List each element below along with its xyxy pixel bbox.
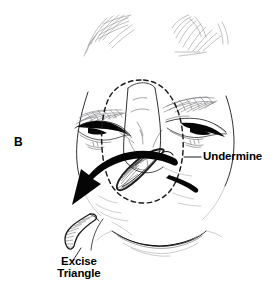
dashed-undermining-outline[interactable] [102, 80, 184, 203]
hair-strand-right [172, 15, 228, 56]
right-eyebrow [163, 97, 217, 112]
surgical-illustration-figure: B Undermine ExciseTriangle [0, 0, 275, 295]
excise-label-line2: Triangle [57, 267, 100, 279]
undermine-annotation-label: Undermine [203, 150, 262, 162]
excise-triangle-annotation-label: ExciseTriangle [42, 255, 116, 280]
panel-letter-label: B [14, 136, 23, 149]
illustration-canvas [0, 0, 275, 295]
upper-lip-mouth [97, 231, 222, 256]
excised-triangle-wedge[interactable] [65, 214, 99, 249]
cheek-contours [91, 167, 201, 250]
excise-label-line1: Excise [61, 255, 97, 267]
hair-strand-left [84, 15, 134, 56]
right-eye [153, 116, 227, 147]
